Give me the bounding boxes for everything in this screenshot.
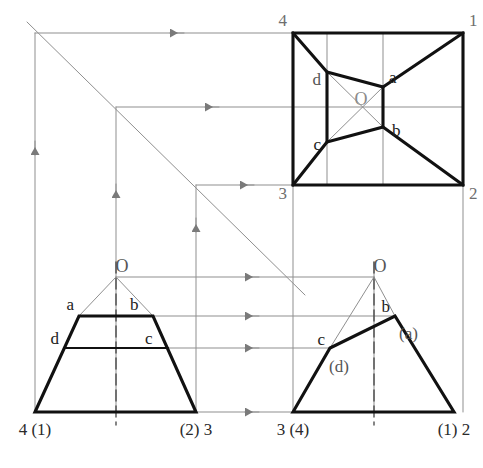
front-view-group [35,262,196,425]
top-point-label-c: c [313,135,321,154]
front-point-label-c: c [145,329,153,348]
side-point-label-a: (a) [399,324,418,343]
side-base-label-0: 3 (4) [277,420,310,439]
side-apex-label-O: O [374,256,387,276]
top-view-group [293,33,463,185]
front-apex-label-O: O [116,256,129,276]
top-point-label-b: b [392,121,401,140]
front-point-label-b: b [130,295,139,314]
miter-line-45deg [27,22,305,295]
top-slant-edge-3 [293,142,327,185]
labels-group: 4123dabcOOabdc4 (1)(2) 3Ob(a)c(d)3 (4)(1… [19,11,478,439]
top-point-label-d: d [313,70,322,89]
side-point-label-b: b [382,297,391,316]
technical-drawing-canvas: 4123dabcOOabdc4 (1)(2) 3Ob(a)c(d)3 (4)(1… [0,0,483,468]
top-outer-square [293,33,463,185]
front-apex-ray-0 [79,277,116,316]
top-corner-label-4: 4 [279,11,288,30]
front-base-label-0: 4 (1) [19,420,52,439]
front-point-label-a: a [66,295,74,314]
front-base-label-1: (2) 3 [180,420,213,439]
construction-lines-group [27,22,463,412]
top-slant-edge-0 [293,33,327,72]
side-point-label-c: c [317,330,325,349]
front-point-label-d: d [51,329,60,348]
top-point-label-a: a [389,68,397,87]
top-corner-label-1: 1 [469,11,478,30]
top-corner-label-3: 3 [279,184,288,203]
top-apex-label-O: O [355,89,368,109]
projection-drawing: 4123dabcOOabdc4 (1)(2) 3Ob(a)c(d)3 (4)(1… [0,0,483,468]
side-base-label-1: (1) 2 [438,420,471,439]
side-point-label-d: (d) [329,357,349,376]
top-corner-label-2: 2 [469,184,478,203]
